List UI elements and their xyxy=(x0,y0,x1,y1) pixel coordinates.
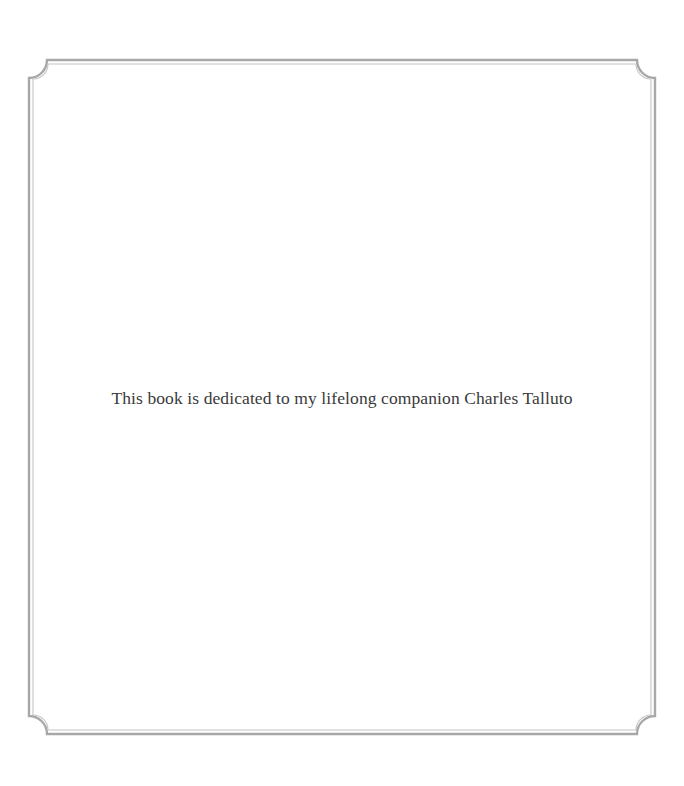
dedication-page: This book is dedicated to my lifelong co… xyxy=(0,0,684,786)
dedication-text: This book is dedicated to my lifelong co… xyxy=(0,387,684,409)
